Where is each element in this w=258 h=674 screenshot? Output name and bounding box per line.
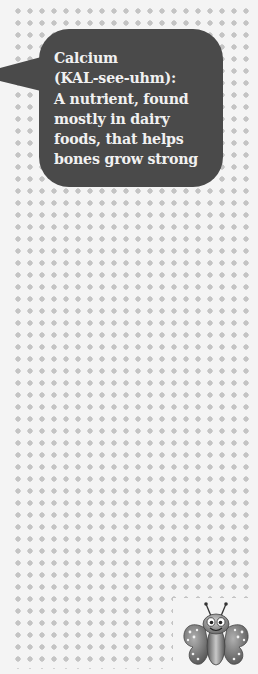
butterfly-icon <box>173 598 258 670</box>
mascot-panel <box>173 598 258 670</box>
definition-text: Calcium (KAL-see-uhm): A nutrient, found… <box>54 48 224 170</box>
speech-bubble: Calcium (KAL-see-uhm): A nutrient, found… <box>0 0 258 200</box>
